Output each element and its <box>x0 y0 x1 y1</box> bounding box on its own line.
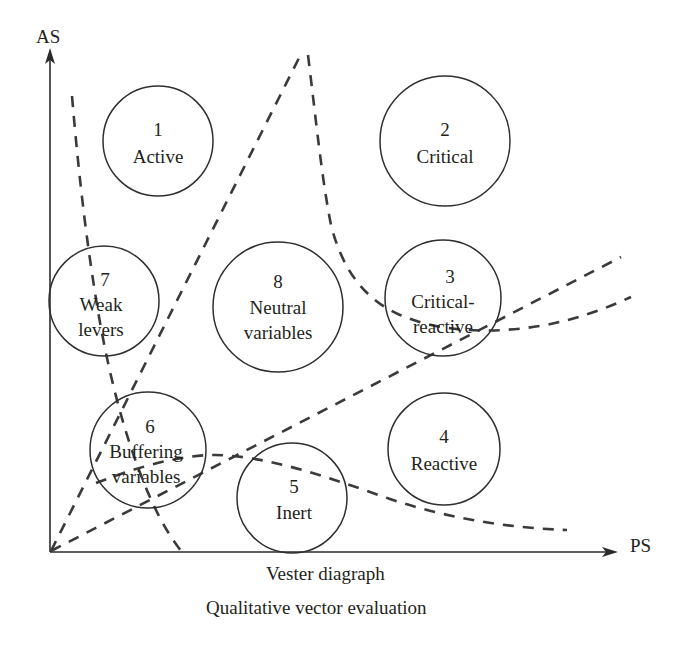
bubble-4-reactive[interactable] <box>388 393 500 505</box>
bubble-7-text-group: 7 Weak levers <box>78 269 123 340</box>
bubble-3-label-line2: reactive <box>413 316 473 337</box>
bubble-2-text-group: 2 Critical <box>417 119 474 167</box>
dashed-curve-central-hyperbola <box>308 55 631 331</box>
bubble-5-text-group: 5 Inert <box>276 476 313 523</box>
bubble-7-label-line1: Weak <box>80 294 123 315</box>
bubble-2-critical[interactable] <box>380 76 510 206</box>
figure-title: Vester diagraph <box>266 563 385 584</box>
bubble-1-label: Active <box>133 146 184 167</box>
bubble-8-number: 8 <box>273 271 283 292</box>
bubble-5-label: Inert <box>276 502 313 523</box>
bubble-5-inert[interactable] <box>237 443 347 553</box>
bubble-7-number: 7 <box>100 269 110 290</box>
diagram-canvas: AS PS 1 Active 2 Critical 7 Weak levers … <box>0 0 683 645</box>
figure-subtitle: Qualitative vector evaluation <box>206 597 427 618</box>
y-axis-label: AS <box>36 26 60 47</box>
bubble-3-number: 3 <box>445 266 455 287</box>
bubble-1-active[interactable] <box>103 86 213 196</box>
bubble-6-number: 6 <box>145 416 155 437</box>
bubble-8-label-line1: Neutral <box>250 297 307 318</box>
vester-diagraph-figure: AS PS 1 Active 2 Critical 7 Weak levers … <box>0 0 683 645</box>
bubble-8-text-group: 8 Neutral variables <box>244 271 313 343</box>
bubble-4-label: Reactive <box>411 453 477 474</box>
bubble-3-label-line1: Critical- <box>411 291 474 312</box>
bubble-8-label-line2: variables <box>244 322 313 343</box>
bubble-6-label-line1: Buffering <box>109 441 183 462</box>
bubble-4-number: 4 <box>439 426 449 447</box>
bubble-3-text-group: 3 Critical- reactive <box>411 266 474 337</box>
bubble-2-number: 2 <box>440 119 450 140</box>
bubble-2-label: Critical <box>417 146 474 167</box>
x-axis-label: PS <box>630 535 651 556</box>
bubble-1-text-group: 1 Active <box>133 119 184 167</box>
bubble-7-label-line2: levers <box>78 319 123 340</box>
bubble-6-text-group: 6 Buffering variables <box>109 416 183 487</box>
bubble-1-number: 1 <box>153 119 163 140</box>
bubble-6-label-line2: variables <box>112 466 181 487</box>
bubble-4-text-group: 4 Reactive <box>411 426 477 474</box>
bubble-5-number: 5 <box>289 476 299 497</box>
